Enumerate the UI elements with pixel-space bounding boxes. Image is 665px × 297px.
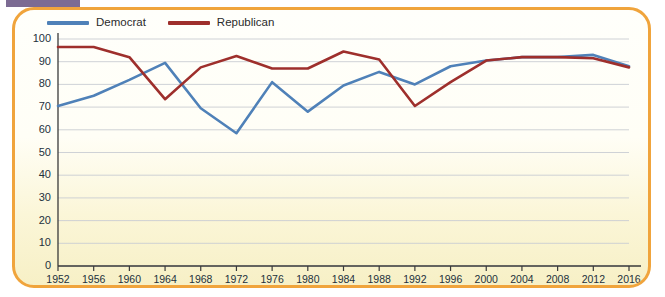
x-axis-tick-label: 2004 — [502, 274, 542, 285]
y-axis-tick-label: 80 — [25, 78, 51, 89]
figure-card: Democrat Republican 01020304050607080901… — [12, 7, 651, 288]
y-axis-tick-label: 50 — [25, 147, 51, 158]
line-chart-svg — [15, 10, 651, 288]
y-axis-tick-label: 10 — [25, 237, 51, 248]
y-axis-tick-label: 90 — [25, 56, 51, 67]
x-axis-tick-label: 1984 — [324, 274, 364, 285]
series-line-republican — [58, 47, 629, 106]
y-axis-tick-label: 60 — [25, 124, 51, 135]
y-axis-tick-label: 70 — [25, 101, 51, 112]
plot-area: 0102030405060708090100195219561960196419… — [15, 10, 651, 288]
chart-legend: Democrat Republican — [47, 17, 274, 29]
x-axis-tick-label: 1952 — [38, 274, 78, 285]
x-axis-tick-label: 1972 — [216, 274, 256, 285]
x-axis-tick-label: 1956 — [74, 274, 114, 285]
x-axis-tick-label: 2000 — [466, 274, 506, 285]
legend-label-republican: Republican — [217, 17, 275, 29]
x-axis-tick-label: 1988 — [359, 274, 399, 285]
x-axis-tick-label: 1996 — [431, 274, 471, 285]
y-axis-tick-label: 40 — [25, 169, 51, 180]
x-axis-tick-label: 2016 — [609, 274, 649, 285]
legend-label-democrat: Democrat — [96, 17, 146, 29]
y-axis-tick-label: 0 — [25, 260, 51, 271]
x-axis-tick-label: 1992 — [395, 274, 435, 285]
x-axis-tick-label: 1960 — [109, 274, 149, 285]
x-axis-tick-label: 2012 — [573, 274, 613, 285]
y-axis-tick-label: 20 — [25, 215, 51, 226]
series-line-democrat — [58, 55, 629, 133]
y-axis-tick-label: 100 — [25, 33, 51, 44]
x-axis-tick-label: 2008 — [538, 274, 578, 285]
x-axis-tick-label: 1968 — [181, 274, 221, 285]
section-tab-fragment — [6, 0, 80, 7]
legend-item-republican: Republican — [168, 17, 275, 29]
legend-item-democrat: Democrat — [47, 17, 146, 29]
x-axis-tick-label: 1976 — [252, 274, 292, 285]
legend-swatch-democrat — [47, 21, 89, 25]
x-axis-tick-label: 1980 — [288, 274, 328, 285]
y-axis-tick-label: 30 — [25, 192, 51, 203]
x-axis-tick-label: 1964 — [145, 274, 185, 285]
legend-swatch-republican — [168, 21, 210, 25]
